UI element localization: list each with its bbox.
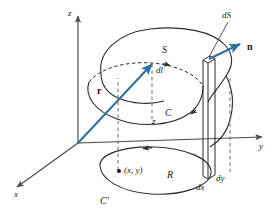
stokes-theorem-figure: z y x S dS n dl C C' R (x, y) dx dy z r bbox=[0, 0, 274, 217]
figure-canvas bbox=[0, 0, 274, 217]
axis-label-z: z bbox=[68, 9, 72, 18]
label-curve-C: C bbox=[165, 108, 172, 118]
label-normal-n: n bbox=[247, 42, 253, 52]
label-line-element-dl: dl bbox=[156, 66, 163, 75]
axis-x bbox=[17, 143, 78, 187]
label-curve-C-prime: C' bbox=[100, 196, 109, 206]
axis-label-y: y bbox=[259, 142, 263, 151]
point-marker-xy bbox=[117, 169, 121, 173]
label-surface-element-dS: dS bbox=[222, 11, 231, 20]
label-dx: dx bbox=[196, 183, 205, 192]
label-position-vector-r: r bbox=[97, 86, 101, 96]
label-region-R: R bbox=[167, 170, 173, 180]
label-height-z: z bbox=[152, 117, 156, 126]
label-point-xy: (x, y) bbox=[124, 166, 142, 175]
axis-label-x: x bbox=[14, 190, 18, 199]
label-dy: dy bbox=[216, 174, 225, 183]
label-surface-S: S bbox=[162, 45, 167, 55]
normal-vector-n bbox=[209, 44, 240, 59]
projection-lines bbox=[118, 64, 230, 172]
axis-y bbox=[78, 137, 262, 143]
